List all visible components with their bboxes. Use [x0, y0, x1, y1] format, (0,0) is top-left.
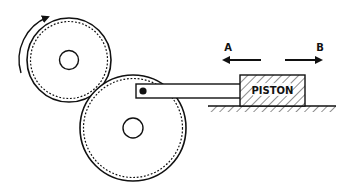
ground [206, 106, 340, 120]
direction-a-label: A [224, 42, 232, 53]
direction-b-label: B [316, 42, 324, 53]
piston: PISTON [240, 75, 305, 106]
piston-label: PISTON [252, 85, 294, 96]
large-gear-hub-icon [123, 118, 143, 138]
piston-gear-diagram: PISTON A B [0, 0, 356, 193]
connecting-rod [136, 84, 241, 98]
crank-pin-icon [139, 87, 146, 94]
small-gear-hub-icon [60, 51, 79, 70]
